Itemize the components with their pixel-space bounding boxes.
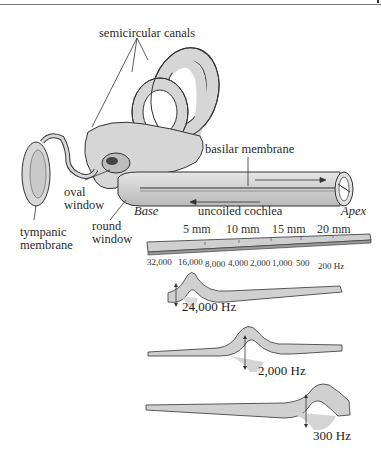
freq-tick-32000: 32,000 [147, 257, 172, 267]
label-round-window: round window [92, 220, 132, 246]
label-uncoiled-cochlea: uncoiled cochlea [198, 205, 282, 218]
freq-tick-4000: 4,000 [228, 258, 248, 268]
ruler-tick-5mm: 5 mm [183, 222, 211, 237]
tympanic-membrane-leader [34, 206, 36, 220]
label-tympanic-membrane: tympanic membrane [20, 226, 73, 252]
freq-tick-16000: 16,000 [178, 257, 203, 267]
ruler-tick-20mm: 20 mm [317, 222, 351, 237]
label-apex: Apex [341, 205, 366, 218]
wave-2000 [148, 326, 342, 372]
label-basilar-membrane: basilar membrane [205, 143, 294, 156]
label-base: Base [134, 205, 158, 218]
freq-tick-8000: 8,000 [205, 259, 225, 269]
round-window-leader [110, 200, 126, 220]
freq-tick-2000: 2,000 [250, 258, 270, 268]
wave-label-2000: 2,000 Hz [258, 363, 306, 379]
wave-label-300: 300 Hz [313, 428, 351, 444]
freq-tick-1000: 1,000 [272, 258, 292, 268]
ruler-tick-15mm: 15 mm [272, 222, 306, 237]
wave-label-24000: 24,000 Hz [182, 299, 236, 315]
ruler-strip [147, 234, 371, 255]
uncoiled-cochlea-tube [118, 172, 340, 206]
label-semicircular-canals: semicircular canals [99, 27, 195, 40]
freq-tick-200hz: 200 Hz [318, 261, 344, 271]
freq-tick-500: 500 [296, 258, 310, 268]
wave-300 [146, 384, 350, 430]
ruler-tick-10mm: 10 mm [226, 222, 260, 237]
label-oval-window: oval window [64, 186, 104, 212]
